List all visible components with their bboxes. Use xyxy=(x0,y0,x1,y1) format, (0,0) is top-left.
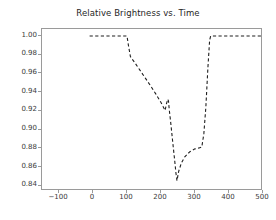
y-tick-label: 1.00 xyxy=(0,31,37,39)
y-tick-label: 0.98 xyxy=(0,49,37,57)
y-tick-label: 0.94 xyxy=(0,87,37,95)
y-tick-label: 0.90 xyxy=(0,124,37,132)
x-tick-label: 500 xyxy=(242,193,276,201)
brightness-line-series xyxy=(90,36,263,181)
y-tick-label: 0.92 xyxy=(0,105,37,113)
chart-title: Relative Brightness vs. Time xyxy=(0,8,276,18)
y-tick-label: 0.84 xyxy=(0,180,37,188)
y-tick-label: 0.86 xyxy=(0,162,37,170)
chart-figure: Relative Brightness vs. Time 0.840.860.8… xyxy=(0,0,276,220)
y-tick-label: 0.96 xyxy=(0,68,37,76)
plot-area xyxy=(41,28,262,190)
y-tick-label: 0.88 xyxy=(0,143,37,151)
light-curve-plot xyxy=(42,29,263,191)
